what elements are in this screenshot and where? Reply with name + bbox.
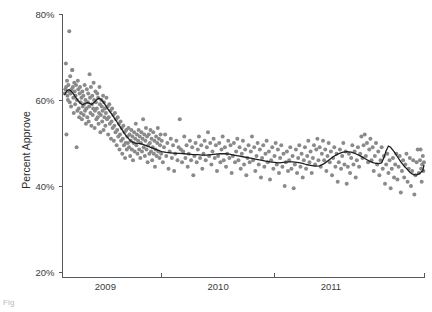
data-point <box>75 145 79 149</box>
data-point <box>215 169 219 173</box>
data-point <box>350 143 354 147</box>
data-point <box>362 143 366 147</box>
data-point <box>357 165 361 169</box>
data-point <box>81 94 85 98</box>
data-point <box>77 107 81 111</box>
data-point <box>277 171 281 175</box>
data-point <box>336 180 340 184</box>
data-point <box>283 184 287 188</box>
data-point <box>241 139 245 143</box>
data-point <box>256 141 260 145</box>
data-point <box>392 175 396 179</box>
data-point <box>123 156 127 160</box>
data-point <box>65 79 69 83</box>
data-point <box>346 165 350 169</box>
data-point <box>104 111 108 115</box>
data-point <box>198 156 202 160</box>
data-point <box>112 139 116 143</box>
data-point <box>399 190 403 194</box>
data-point <box>286 169 290 173</box>
data-point <box>80 117 84 121</box>
data-point <box>185 143 189 147</box>
data-point <box>297 143 301 147</box>
data-point <box>240 152 244 156</box>
data-point <box>293 163 297 167</box>
data-point <box>103 124 107 128</box>
data-point <box>220 147 224 151</box>
data-point <box>97 122 101 126</box>
data-point <box>259 175 263 179</box>
data-point <box>199 143 203 147</box>
data-point <box>254 154 258 158</box>
data-point <box>384 163 388 167</box>
data-point <box>93 126 97 130</box>
data-point <box>400 169 404 173</box>
data-point <box>164 154 168 158</box>
data-point <box>234 150 238 154</box>
data-point <box>374 141 378 145</box>
data-point <box>314 147 318 151</box>
data-point <box>100 120 104 124</box>
data-point <box>330 173 334 177</box>
data-point <box>191 173 195 177</box>
data-point <box>223 145 227 149</box>
data-point <box>315 137 319 141</box>
data-point <box>262 165 266 169</box>
data-point <box>359 135 363 139</box>
data-point <box>386 171 390 175</box>
data-point <box>89 85 93 89</box>
data-point <box>85 87 89 91</box>
data-point <box>143 139 147 143</box>
data-point <box>271 167 275 171</box>
data-point <box>367 147 371 151</box>
x-axis-ticks: 200920102011 <box>63 273 425 293</box>
y-tick-label: 20% <box>35 267 55 278</box>
data-point <box>131 158 135 162</box>
data-point <box>95 92 99 96</box>
data-point <box>190 145 194 149</box>
data-point <box>296 156 300 160</box>
data-point <box>151 130 155 134</box>
trend-line <box>65 90 424 175</box>
data-point <box>159 132 163 136</box>
data-point <box>156 126 160 130</box>
data-point <box>95 107 99 111</box>
data-point <box>112 124 116 128</box>
data-point <box>229 143 233 147</box>
data-point <box>116 115 120 119</box>
data-point <box>107 115 111 119</box>
data-point <box>420 180 424 184</box>
data-point <box>322 158 326 162</box>
data-point <box>150 158 154 162</box>
data-point <box>345 182 349 186</box>
data-point <box>147 132 151 136</box>
data-point <box>69 104 73 108</box>
data-point <box>186 165 190 169</box>
data-point <box>304 167 308 171</box>
scatter-points-layer <box>63 29 426 196</box>
data-point <box>383 182 387 186</box>
data-point <box>87 120 91 124</box>
data-point <box>195 160 199 164</box>
data-point <box>363 132 367 136</box>
data-point <box>176 158 180 162</box>
data-point <box>244 173 248 177</box>
data-point <box>148 141 152 145</box>
data-point <box>377 173 381 177</box>
data-point <box>115 143 119 147</box>
data-point <box>205 145 209 149</box>
data-point <box>257 163 261 167</box>
data-point <box>263 152 267 156</box>
figure-container: Percent Approve 20%40%60%80% 20092010201… <box>0 0 432 312</box>
data-point <box>421 154 425 158</box>
data-point <box>232 141 236 145</box>
data-point <box>402 175 406 179</box>
data-point <box>197 135 201 139</box>
y-tick-label: 60% <box>35 95 55 106</box>
data-point <box>260 156 264 160</box>
data-point <box>341 141 345 145</box>
data-point <box>110 120 114 124</box>
data-point <box>329 150 333 154</box>
data-point <box>301 175 305 179</box>
data-point <box>163 132 167 136</box>
